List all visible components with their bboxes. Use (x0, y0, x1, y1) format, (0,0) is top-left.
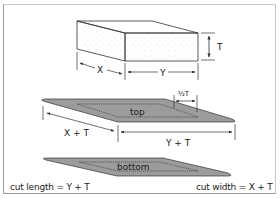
x-label: X (97, 65, 103, 75)
bottom-label: bottom (117, 162, 150, 172)
foam-block (77, 21, 198, 61)
t-label: T (216, 42, 223, 52)
top-label: top (130, 107, 145, 117)
x-plus-t-label: X + T (64, 128, 89, 138)
cut-length-formula: cut length = Y + T (10, 182, 90, 192)
half-t-label: ½T (178, 90, 190, 98)
cut-width-formula: cut width = X + T (196, 182, 273, 192)
diagram-canvas: X Y T top ½T X + T Y + T (0, 0, 280, 198)
y-plus-t-label: Y + T (165, 138, 191, 148)
y-label: Y (159, 68, 166, 78)
t-dimension: T (201, 33, 223, 60)
y-dimension: Y (128, 63, 198, 80)
top-panel: top (42, 99, 235, 122)
y-plus-t-dimension: Y + T (121, 124, 235, 148)
bottom-panel: bottom (43, 158, 231, 176)
